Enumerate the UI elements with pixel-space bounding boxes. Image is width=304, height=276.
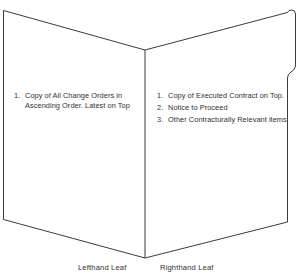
list-item-number: 2. <box>157 103 163 113</box>
open-binder-outline <box>4 10 296 258</box>
list-item-text: Copy of All Change Orders in Ascending O… <box>25 91 130 110</box>
righthand-leaf-contents-list: 1. Copy of Executed Contract on Top. 2. … <box>157 91 287 127</box>
lefthand-leaf-caption: Lefthand Leaf <box>78 263 126 272</box>
list-item-number: 3. <box>157 115 163 125</box>
righthand-leaf-caption: Righthand Leaf <box>160 263 214 272</box>
list-item-text: Copy of Executed Contract on Top. <box>168 91 284 100</box>
figure-canvas: Figure Construction Filing Binder 1. Cop… <box>0 0 304 276</box>
lefthand-leaf-contents-list: 1. Copy of All Change Orders in Ascendin… <box>14 91 142 113</box>
list-item-text: Notice to Proceed <box>168 103 228 112</box>
list-item: 1. Copy of Executed Contract on Top. <box>157 91 287 101</box>
list-item-number: 1. <box>157 91 163 101</box>
list-item-number: 1. <box>14 91 20 101</box>
open-binder-illustration <box>0 0 304 276</box>
list-item: 2. Notice to Proceed <box>157 103 287 113</box>
list-item: 3. Other Contracturally Relevant items <box>157 115 287 125</box>
list-item: 1. Copy of All Change Orders in Ascendin… <box>14 91 142 112</box>
list-item-text: Other Contracturally Relevant items <box>168 115 287 124</box>
